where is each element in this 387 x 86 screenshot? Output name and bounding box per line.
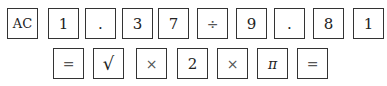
key-multiply[interactable]: ×: [136, 48, 167, 79]
key-multiply[interactable]: ×: [217, 48, 248, 79]
key-1[interactable]: 1: [48, 8, 79, 39]
key-divide[interactable]: ÷: [197, 8, 228, 39]
key-7[interactable]: 7: [158, 8, 189, 39]
key-8[interactable]: 8: [313, 8, 344, 39]
key-decimal-point[interactable]: .: [274, 8, 305, 39]
key-3[interactable]: 3: [122, 8, 153, 39]
key-pi[interactable]: π: [257, 48, 288, 79]
key-equals[interactable]: =: [297, 48, 328, 79]
key-decimal-point[interactable]: .: [85, 8, 116, 39]
key-9[interactable]: 9: [236, 8, 267, 39]
key-square-root[interactable]: √: [93, 48, 124, 79]
key-equals[interactable]: =: [53, 48, 84, 79]
key-1[interactable]: 1: [353, 8, 384, 39]
key-all-clear[interactable]: AC: [7, 8, 38, 39]
key-2[interactable]: 2: [177, 48, 208, 79]
